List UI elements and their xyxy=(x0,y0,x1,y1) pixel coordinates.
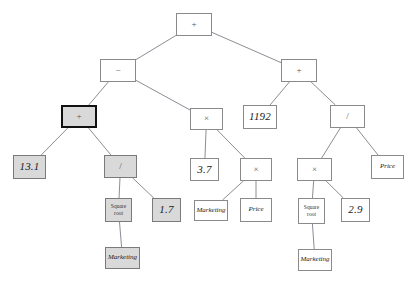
tree-node-n14[interactable]: 1.7 xyxy=(152,198,181,222)
tree-edge-n11-n17 xyxy=(312,181,313,198)
tree-node-label: Marketing xyxy=(299,256,331,263)
tree-edge-n1-n3 xyxy=(89,82,109,105)
tree-node-n10[interactable]: × xyxy=(240,158,272,181)
tree-edge-n2-n6 xyxy=(311,82,335,105)
tree-edges-layer xyxy=(0,0,416,293)
tree-node-n20[interactable]: Marketing xyxy=(298,249,332,271)
tree-node-label: Marketing xyxy=(106,254,139,261)
tree-node-n8[interactable]: / xyxy=(104,155,137,178)
tree-edge-n4-n9 xyxy=(205,130,206,158)
tree-edge-n8-n13 xyxy=(119,178,120,198)
tree-node-label: Price xyxy=(372,163,403,170)
tree-node-n4[interactable]: × xyxy=(190,108,223,130)
expression-tree-canvas: +−++×1192/13.1/3.7××PriceSquare root1.7M… xyxy=(0,0,416,293)
tree-node-label: 3.7 xyxy=(191,164,218,176)
tree-node-n2[interactable]: + xyxy=(281,59,317,82)
tree-edge-n6-n11 xyxy=(322,128,341,158)
tree-node-n1[interactable]: − xyxy=(100,59,136,82)
tree-edge-n4-n10 xyxy=(217,130,244,158)
tree-edge-n13-n19 xyxy=(120,222,122,247)
tree-edge-n2-n5 xyxy=(270,82,289,105)
tree-node-label: × xyxy=(298,165,331,174)
tree-edge-n1-n4 xyxy=(136,80,190,110)
tree-node-n5[interactable]: 1192 xyxy=(243,105,277,129)
tree-node-label: + xyxy=(177,20,211,29)
tree-node-label: + xyxy=(282,66,316,75)
tree-edge-n11-n18 xyxy=(326,181,343,198)
tree-node-label: / xyxy=(331,112,364,121)
tree-node-label: 1192 xyxy=(244,111,276,123)
tree-node-label: 2.9 xyxy=(342,204,369,216)
tree-node-n13[interactable]: Square root xyxy=(105,198,132,222)
tree-node-n12[interactable]: Price xyxy=(371,155,404,179)
tree-node-label: Marketing xyxy=(195,207,227,214)
tree-node-label: Square root xyxy=(106,203,131,217)
tree-node-label: Square root xyxy=(299,204,324,218)
tree-node-n7[interactable]: 13.1 xyxy=(13,155,46,179)
tree-node-n19[interactable]: Marketing xyxy=(105,247,140,269)
tree-node-n6[interactable]: / xyxy=(330,105,365,128)
tree-edge-n0-n1 xyxy=(136,35,176,59)
tree-node-label: 1.7 xyxy=(153,204,180,216)
tree-node-n3[interactable]: + xyxy=(61,105,97,128)
tree-node-n16[interactable]: Price xyxy=(240,198,272,222)
tree-node-label: − xyxy=(101,66,135,75)
tree-edge-n3-n8 xyxy=(89,128,111,155)
tree-edge-n8-n14 xyxy=(133,178,154,198)
tree-node-n18[interactable]: 2.9 xyxy=(341,198,370,222)
tree-node-label: × xyxy=(241,165,271,174)
tree-node-n11[interactable]: × xyxy=(297,158,332,181)
tree-node-n17[interactable]: Square root xyxy=(298,198,325,224)
tree-node-n9[interactable]: 3.7 xyxy=(190,158,219,181)
tree-node-label: + xyxy=(63,112,95,121)
tree-edge-n3-n7 xyxy=(41,128,67,155)
tree-node-label: / xyxy=(105,162,136,171)
tree-edge-n0-n2 xyxy=(212,32,281,62)
tree-node-label: × xyxy=(191,114,222,123)
tree-node-label: Price xyxy=(241,206,271,213)
tree-edge-n6-n12 xyxy=(357,128,378,155)
tree-node-label: 13.1 xyxy=(14,161,45,173)
tree-node-n0[interactable]: + xyxy=(176,13,212,36)
tree-node-n15[interactable]: Marketing xyxy=(194,200,228,221)
tree-edge-n17-n20 xyxy=(312,224,314,249)
